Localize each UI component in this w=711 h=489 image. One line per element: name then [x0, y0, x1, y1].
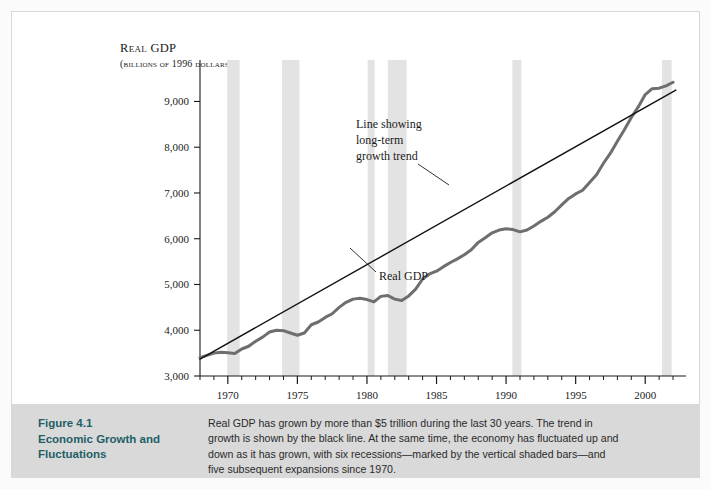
- x-tick-label-2000: 2000: [634, 389, 657, 401]
- trend-annotation-leader-line: [418, 164, 449, 185]
- figure-frame: Real GDP (billions of 1996 dollars) 3,00…: [11, 11, 700, 478]
- x-tick-label-1990: 1990: [495, 389, 518, 401]
- caption-title-line-0: Figure 4.1: [38, 416, 208, 432]
- data-series-group: [200, 82, 676, 359]
- series-real-gdp-line: [200, 82, 673, 357]
- recession-bar-1969-1970: [227, 60, 240, 376]
- y-tick-label-4,000: 4,000: [164, 324, 189, 336]
- figure-caption-title: Figure 4.1Economic Growth andFluctuation…: [12, 404, 208, 463]
- x-tick-labels-group: 1970197519801985199019952000: [217, 389, 657, 401]
- caption-body-line-1: growth is shown by the black line. At th…: [208, 431, 681, 446]
- y-tick-label-5,000: 5,000: [164, 278, 189, 290]
- recession-bar-1973-1975: [282, 60, 299, 376]
- x-tick-label-1995: 1995: [565, 389, 588, 401]
- y-tick-label-3,000: 3,000: [164, 370, 189, 382]
- x-tick-label-1985: 1985: [426, 389, 449, 401]
- y-tick-label-9,000: 9,000: [164, 95, 189, 107]
- tick-marks-group: [194, 101, 673, 384]
- real-gdp-annotation-line-0: Real GDP: [379, 269, 428, 283]
- caption-body-line-2: down as it has grown, with six recession…: [208, 447, 681, 462]
- plot-area: Real GDP (billions of 1996 dollars) 3,00…: [12, 12, 699, 404]
- figure-caption-text: Real GDP has grown by more than $5 trill…: [208, 404, 699, 477]
- y-tick-label-8,000: 8,000: [164, 141, 189, 153]
- caption-body-line-0: Real GDP has grown by more than $5 trill…: [208, 416, 681, 431]
- figure-caption-band: Figure 4.1Economic Growth andFluctuation…: [12, 404, 699, 478]
- caption-title-line-2: Fluctuations: [38, 447, 208, 463]
- x-tick-label-1980: 1980: [356, 389, 379, 401]
- figure-page: Real GDP (billions of 1996 dollars) 3,00…: [0, 0, 711, 489]
- trend-annotation-line-2: growth trend: [356, 149, 418, 163]
- recession-bar-1990-1991: [512, 60, 521, 376]
- trend-annotation-line-0: Line showing: [356, 117, 422, 131]
- real-gdp-line-chart: 3,0004,0005,0006,0007,0008,0009,000 1970…: [12, 12, 699, 404]
- caption-title-line-1: Economic Growth and: [38, 432, 208, 448]
- y-tick-label-6,000: 6,000: [164, 233, 189, 245]
- series-trend-line: [200, 90, 676, 359]
- caption-body-line-3: five subsequent expansions since 1970.: [208, 462, 681, 477]
- recession-bar-1980: [368, 60, 375, 376]
- recession-bar-2001: [662, 60, 672, 376]
- x-tick-label-1970: 1970: [217, 389, 240, 401]
- x-tick-label-1975: 1975: [286, 389, 309, 401]
- trend-annotation-line-1: long-term: [356, 133, 404, 147]
- y-tick-labels-group: 3,0004,0005,0006,0007,0008,0009,000: [164, 95, 189, 382]
- y-tick-label-7,000: 7,000: [164, 187, 189, 199]
- axes-group: [200, 60, 686, 376]
- recession-bar-1981-1982: [388, 60, 407, 376]
